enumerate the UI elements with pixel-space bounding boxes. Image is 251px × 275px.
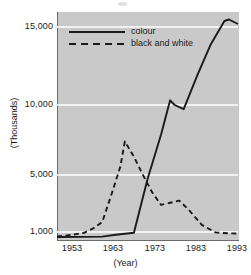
y-tick-label-15000: 15,000	[5, 21, 53, 31]
x-axis-title: (Year)	[0, 258, 251, 268]
legend-swatches	[69, 32, 125, 44]
y-tick-label-1000: 1,000	[5, 226, 53, 236]
x-tick-label-1953: 1953	[52, 243, 92, 253]
line-chart-figure: 15,000 10,000 5,000 1,000 1953 1963 1973…	[0, 0, 251, 275]
x-tick-label-1973: 1973	[135, 243, 175, 253]
y-axis-title: (Thousands)	[9, 88, 19, 158]
x-tick-label-1993: 1993	[217, 243, 251, 253]
gridlines	[57, 27, 238, 232]
series-line-colour	[57, 20, 238, 237]
y-tick-label-5000: 5,000	[5, 169, 53, 179]
plot-canvas	[57, 12, 238, 240]
data-series	[57, 20, 238, 237]
artifact-speck	[118, 2, 127, 6]
x-tick-label-1963: 1963	[93, 243, 133, 253]
x-tick-label-1983: 1983	[176, 243, 216, 253]
series-line-black-and-white	[57, 141, 238, 236]
